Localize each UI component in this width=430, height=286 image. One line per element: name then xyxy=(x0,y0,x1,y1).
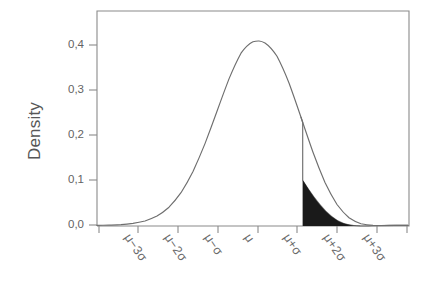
density-plot-figure: Density 0,0 0,1 0,2 0,3 0,4 xyxy=(0,0,430,286)
y-axis-ticks xyxy=(89,45,97,225)
shaded-tail-area-overlay xyxy=(303,180,372,225)
plot-frame xyxy=(97,11,409,226)
density-curve xyxy=(97,41,408,226)
